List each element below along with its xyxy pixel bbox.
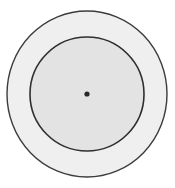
center-dot <box>84 91 89 96</box>
concentric-circles-diagram <box>0 0 175 188</box>
